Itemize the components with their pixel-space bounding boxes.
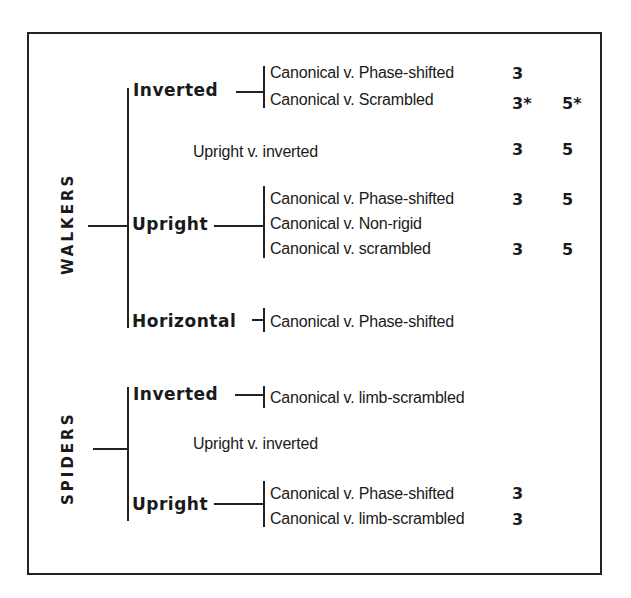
walkers-inverted-bracket xyxy=(263,66,265,108)
walkers-upright-connector xyxy=(214,225,263,227)
walkers-inverted-item-2-col2: 5* xyxy=(562,94,582,113)
spiders-upright-bracket xyxy=(263,481,265,527)
spiders-inverted-item-1: Canonical v. limb-scrambled xyxy=(270,389,464,407)
walkers-upright-bracket xyxy=(263,186,265,258)
spiders-inverted-label: Inverted xyxy=(133,384,218,404)
walkers-horizontal-connector xyxy=(252,319,263,321)
spiders-inverted-connector xyxy=(235,394,263,396)
walkers-main-bracket xyxy=(127,88,129,328)
walkers-horizontal-bracket xyxy=(263,308,265,332)
walkers-comparison: Upright v. inverted xyxy=(193,143,318,161)
walkers-horizontal-item-1: Canonical v. Phase-shifted xyxy=(270,313,454,331)
walkers-upright-item-2: Canonical v. Non-rigid xyxy=(270,215,422,233)
walkers-root-connector xyxy=(88,225,128,227)
spiders-upright-item-2-col1: 3 xyxy=(512,510,523,529)
spiders-upright-label: Upright xyxy=(132,494,208,514)
walkers-upright-item-3: Canonical v. scrambled xyxy=(270,240,431,258)
walkers-upright-item-3-col1: 3 xyxy=(512,240,523,259)
spiders-upright-item-1: Canonical v. Phase-shifted xyxy=(270,485,454,503)
walkers-group-label: WALKERS xyxy=(59,173,77,275)
spiders-comparison: Upright v. inverted xyxy=(193,435,318,453)
walkers-inverted-item-2-col1: 3* xyxy=(512,94,532,113)
walkers-upright-item-3-col2: 5 xyxy=(562,240,573,259)
spiders-upright-item-1-col1: 3 xyxy=(512,484,523,503)
walkers-upright-item-1: Canonical v. Phase-shifted xyxy=(270,190,454,208)
spiders-group-label: SPIDERS xyxy=(59,412,77,505)
walkers-inverted-item-1-col1: 3 xyxy=(512,64,523,83)
walkers-inverted-connector xyxy=(236,91,263,93)
walkers-comparison-col1: 3 xyxy=(512,140,523,159)
walkers-comparison-col2: 5 xyxy=(562,140,573,159)
walkers-inverted-item-2: Canonical v. Scrambled xyxy=(270,91,433,109)
spiders-upright-connector xyxy=(214,503,263,505)
spiders-main-bracket xyxy=(127,387,129,521)
spiders-inverted-bracket xyxy=(263,386,265,408)
walkers-upright-label: Upright xyxy=(132,214,208,234)
walkers-horizontal-label: Horizontal xyxy=(132,311,236,331)
walkers-upright-item-1-col1: 3 xyxy=(512,190,523,209)
walkers-inverted-item-1: Canonical v. Phase-shifted xyxy=(270,64,454,82)
walkers-inverted-label: Inverted xyxy=(133,80,218,100)
walkers-upright-item-1-col2: 5 xyxy=(562,190,573,209)
spiders-root-connector xyxy=(93,448,128,450)
spiders-upright-item-2: Canonical v. limb-scrambled xyxy=(270,510,464,528)
